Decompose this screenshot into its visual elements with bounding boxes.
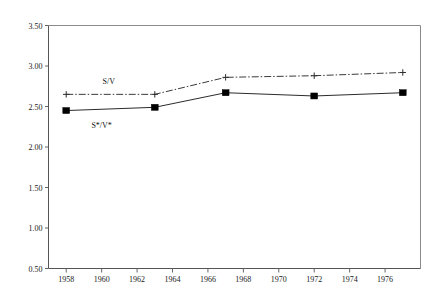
line-chart: 0.501.001.502.002.503.003.50 19581960196… — [0, 0, 439, 296]
series-annotation-label: S*/V* — [91, 121, 111, 130]
chart-background — [0, 0, 439, 296]
x-tick-label: 1974 — [342, 275, 358, 284]
x-tick-label: 1968 — [235, 275, 251, 284]
data-point-marker — [311, 93, 318, 99]
data-point-marker — [63, 108, 70, 114]
series-annotation-label: S/V — [103, 77, 116, 86]
y-tick-label: 3.00 — [29, 62, 43, 71]
x-tick-label: 1970 — [271, 275, 287, 284]
y-tick-label: 2.50 — [29, 103, 43, 112]
y-tick-label: 1.50 — [29, 184, 43, 193]
y-tick-label: 1.00 — [29, 224, 43, 233]
x-tick-label: 1962 — [129, 275, 145, 284]
y-tick-label: 2.00 — [29, 143, 43, 152]
x-tick-label: 1972 — [306, 275, 322, 284]
x-tick-label: 1976 — [377, 275, 393, 284]
data-point-marker — [222, 90, 229, 96]
y-tick-label: 0.50 — [29, 265, 43, 274]
x-tick-label: 1964 — [165, 275, 181, 284]
data-point-marker — [151, 104, 158, 110]
chart-container: 0.501.001.502.002.503.003.50 19581960196… — [0, 0, 439, 296]
x-tick-label: 1958 — [58, 275, 74, 284]
x-tick-label: 1960 — [94, 275, 110, 284]
x-tick-label: 1966 — [200, 275, 216, 284]
data-point-marker — [399, 90, 406, 96]
y-tick-label: 3.50 — [29, 22, 43, 31]
